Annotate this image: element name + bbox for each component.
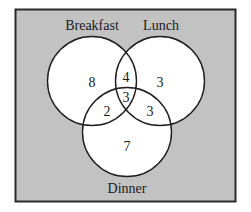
region-lunch-only: 3 bbox=[157, 75, 164, 90]
region-breakfast-dinner: 2 bbox=[104, 104, 111, 119]
lunch-label: Lunch bbox=[143, 18, 179, 33]
region-dinner-only: 7 bbox=[124, 139, 131, 154]
region-lunch-dinner: 3 bbox=[147, 104, 154, 119]
venn-diagram: Breakfast Lunch Dinner 8 3 4 3 2 3 7 bbox=[0, 0, 251, 212]
breakfast-label: Breakfast bbox=[65, 18, 119, 33]
region-breakfast-lunch: 4 bbox=[123, 70, 130, 85]
dinner-label: Dinner bbox=[108, 181, 147, 196]
region-all-three: 3 bbox=[123, 90, 130, 105]
region-breakfast-only: 8 bbox=[89, 75, 96, 90]
